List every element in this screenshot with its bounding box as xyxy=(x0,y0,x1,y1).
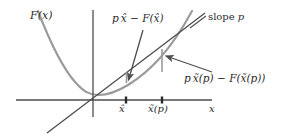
slope-label-word: slope xyxy=(208,11,238,22)
leader-arrow-gap-large xyxy=(166,56,212,72)
axis-label-x: x xyxy=(209,104,215,114)
slope-label: slope p xyxy=(208,12,244,22)
leader-arrow-gap-small xyxy=(129,30,144,80)
figure-canvas: F(x) p x̂ − F(x̂) slope p p x̃(p) − F(x̃… xyxy=(0,0,283,135)
slope-label-variable: p xyxy=(238,11,244,22)
gap-label-small: p x̂ − F(x̂) xyxy=(112,13,164,24)
tick-label-xhat: x̂ xyxy=(119,104,125,114)
tick-label-xtilde: x̃(p) xyxy=(148,104,168,114)
gap-label-large: p x̃(p) − F(x̃(p)) xyxy=(184,73,265,84)
curve-label-fx: F(x) xyxy=(30,10,52,21)
